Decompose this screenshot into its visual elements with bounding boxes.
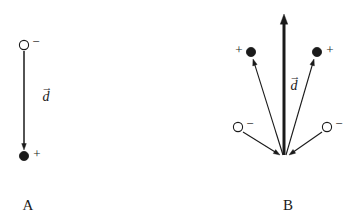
charge-sign-negative-a-0: − (32, 34, 39, 50)
arrow-from-right-negative (289, 132, 322, 155)
vector-label-d-b: d→ (291, 78, 298, 94)
vector-arrow-accent-icon: → (289, 71, 300, 82)
vector-arrow-accent-icon: → (41, 82, 52, 93)
vector-symbol: d→ (291, 78, 298, 94)
arrow-from-left-negative-shaft (243, 132, 275, 152)
panel-label-b: B (283, 197, 293, 214)
dipole-vector-b-main (280, 14, 288, 155)
arrow-from-left-negative-head (273, 150, 280, 155)
arrow-from-left-negative (243, 132, 280, 155)
vector-label-d-a: d→ (43, 89, 50, 105)
vector-symbol: d→ (43, 89, 50, 105)
figure-canvas (0, 0, 356, 224)
dipole-vector-b-main-head (280, 14, 288, 24)
panel-label-a: A (23, 197, 34, 214)
charge-sign-positive-a-1: + (33, 146, 40, 162)
charge-positive-a-1 (19, 151, 28, 160)
arrow-to-left-positive-head (253, 59, 257, 66)
arrow-to-right-positive-head (310, 59, 314, 66)
charge-negative-b-3 (322, 122, 331, 131)
dipole-vector-a-head (22, 144, 27, 151)
charge-positive-b-1 (312, 47, 321, 56)
arrow-from-right-negative-shaft (294, 132, 322, 152)
charge-positive-b-0 (246, 47, 255, 56)
dipole-vector-a (22, 51, 27, 150)
charge-negative-a-0 (19, 40, 28, 49)
charge-sign-positive-b-0: + (235, 42, 242, 58)
arrow-from-right-negative-head (289, 149, 296, 155)
charge-negative-b-2 (233, 122, 242, 131)
charge-sign-negative-b-3: − (335, 116, 342, 132)
charge-sign-positive-b-1: + (326, 42, 333, 58)
charge-sign-negative-b-2: − (246, 116, 253, 132)
panel-A (19, 40, 28, 160)
electric-dipole-figure: −+d→A++−−d→B (0, 0, 356, 224)
panel-B (233, 14, 331, 155)
